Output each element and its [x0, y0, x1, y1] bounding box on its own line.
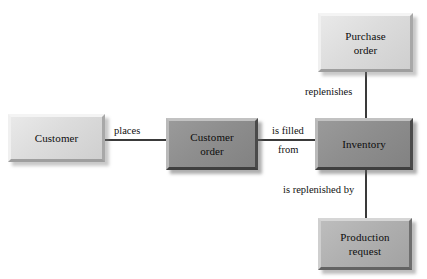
entity-customer-order-label-line2: order [200, 144, 224, 158]
entity-inventory-label-line1: Inventory [342, 137, 386, 151]
entity-customer-order[interactable]: Customer order [166, 118, 258, 170]
er-diagram-canvas: Customer Customer order Inventory Purcha… [0, 0, 427, 279]
entity-purchase-order-label-line1: Purchase [345, 29, 386, 43]
entity-customer[interactable]: Customer [8, 114, 105, 162]
entity-inventory[interactable]: Inventory [315, 118, 413, 170]
relationship-label-replenishes: replenishes [303, 85, 354, 98]
entity-purchase-order[interactable]: Purchase order [318, 13, 413, 72]
relationship-label-from: from [276, 143, 300, 156]
entity-customer-order-label-line1: Customer [190, 130, 234, 144]
entity-production-request[interactable]: Production request [318, 218, 412, 270]
connector-inventory-to-production-request [365, 169, 367, 219]
connector-customer-to-customer-order [105, 139, 167, 141]
relationship-label-places: places [112, 124, 142, 137]
connector-customer-order-to-inventory [258, 139, 316, 141]
relationship-label-is-replenished-by: is replenished by [281, 183, 356, 196]
entity-production-request-label-line1: Production [340, 230, 389, 244]
entity-customer-label-line1: Customer [35, 131, 79, 145]
entity-production-request-label-line2: request [349, 244, 381, 258]
relationship-label-is-filled: is filled [270, 124, 306, 137]
connector-purchase-order-to-inventory [365, 71, 367, 119]
entity-purchase-order-label-line2: order [354, 43, 378, 57]
